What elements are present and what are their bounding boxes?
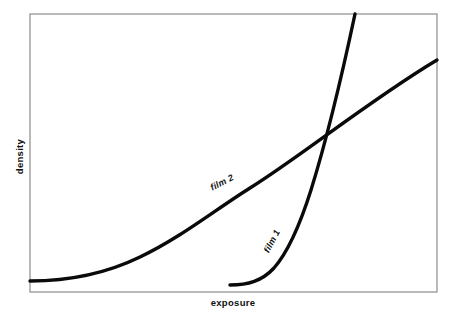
figure-canvas: exposure density film 2 film 1 xyxy=(0,0,449,320)
y-axis-label: density xyxy=(14,122,25,192)
plot-frame xyxy=(30,14,437,292)
x-axis-label: exposure xyxy=(188,297,278,308)
characteristic-curve-plot xyxy=(0,0,449,320)
